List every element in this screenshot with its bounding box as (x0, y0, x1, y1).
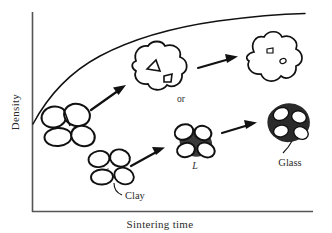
particle (44, 127, 72, 147)
pore-small (164, 74, 172, 82)
grain-body-outline (132, 42, 186, 90)
micropore (267, 48, 273, 53)
x-axis-label: Sintering time (127, 218, 194, 230)
glass-bonded-cluster (268, 104, 310, 142)
y-axis-label: Density (9, 94, 21, 131)
grain-body-outline (247, 32, 302, 81)
diagram-canvas: or Clay (0, 0, 332, 233)
glass-label: Glass (278, 157, 301, 168)
liquid-phase-label: L (191, 160, 198, 171)
particle (91, 169, 114, 185)
dense-body-with-micropores (247, 32, 302, 81)
porous-body-with-pores (132, 42, 186, 90)
or-label: or (177, 94, 186, 104)
clay-label: Clay (125, 190, 146, 201)
sintering-diagram: or Clay (0, 0, 332, 233)
